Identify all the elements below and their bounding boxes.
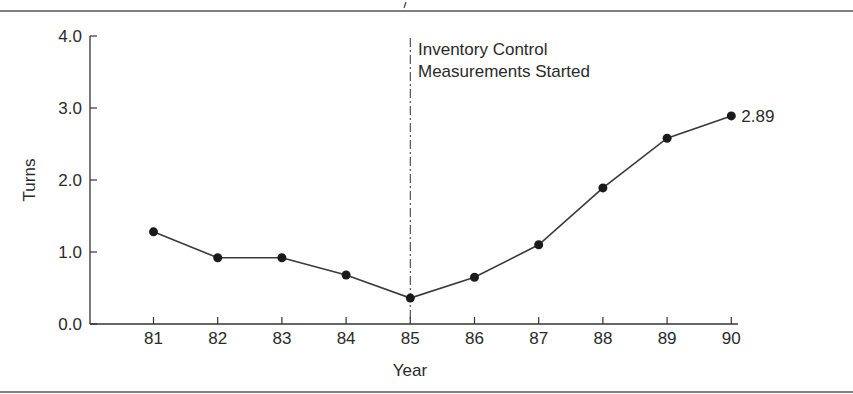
caption-fragment bbox=[404, 2, 406, 8]
data-point-marker bbox=[534, 240, 543, 249]
x-tick-label: 84 bbox=[337, 329, 356, 348]
x-tick-label: 85 bbox=[401, 329, 420, 348]
y-axis-ticks: 0.01.02.03.04.0 bbox=[58, 27, 97, 334]
x-axis-title: Year bbox=[393, 361, 428, 380]
x-tick-label: 82 bbox=[208, 329, 227, 348]
y-tick-label: 4.0 bbox=[58, 27, 82, 46]
data-point-marker bbox=[342, 271, 351, 280]
data-point-marker bbox=[277, 253, 286, 262]
annotation-text-line2: Measurements Started bbox=[418, 62, 590, 81]
data-point-marker bbox=[149, 227, 158, 236]
x-tick-label: 89 bbox=[658, 329, 677, 348]
x-tick-label: 86 bbox=[465, 329, 484, 348]
data-point-marker bbox=[598, 183, 607, 192]
y-tick-label: 1.0 bbox=[58, 243, 82, 262]
x-tick-label: 90 bbox=[722, 329, 741, 348]
y-tick-label: 3.0 bbox=[58, 99, 82, 118]
chart-frame: 0.01.02.03.04.0 81828384858687888990 Inv… bbox=[0, 0, 853, 394]
x-tick-label: 88 bbox=[593, 329, 612, 348]
x-tick-label: 87 bbox=[529, 329, 548, 348]
end-value-label: 2.89 bbox=[741, 107, 774, 126]
x-tick-label: 81 bbox=[144, 329, 163, 348]
data-series-line bbox=[154, 116, 732, 298]
line-chart: 0.01.02.03.04.0 81828384858687888990 Inv… bbox=[0, 0, 853, 394]
y-axis-title: Turns bbox=[20, 159, 39, 202]
y-tick-label: 2.0 bbox=[58, 171, 82, 190]
data-point-marker bbox=[727, 111, 736, 120]
data-point-marker bbox=[213, 253, 222, 262]
annotation-text-line1: Inventory Control bbox=[418, 40, 547, 59]
data-point-marker bbox=[470, 273, 479, 282]
y-tick-label: 0.0 bbox=[58, 315, 82, 334]
data-markers bbox=[149, 111, 736, 302]
x-axis-ticks: 81828384858687888990 bbox=[144, 317, 741, 348]
x-tick-label: 83 bbox=[272, 329, 291, 348]
axes bbox=[90, 36, 738, 324]
data-point-marker bbox=[663, 134, 672, 143]
data-point-marker bbox=[406, 294, 415, 303]
